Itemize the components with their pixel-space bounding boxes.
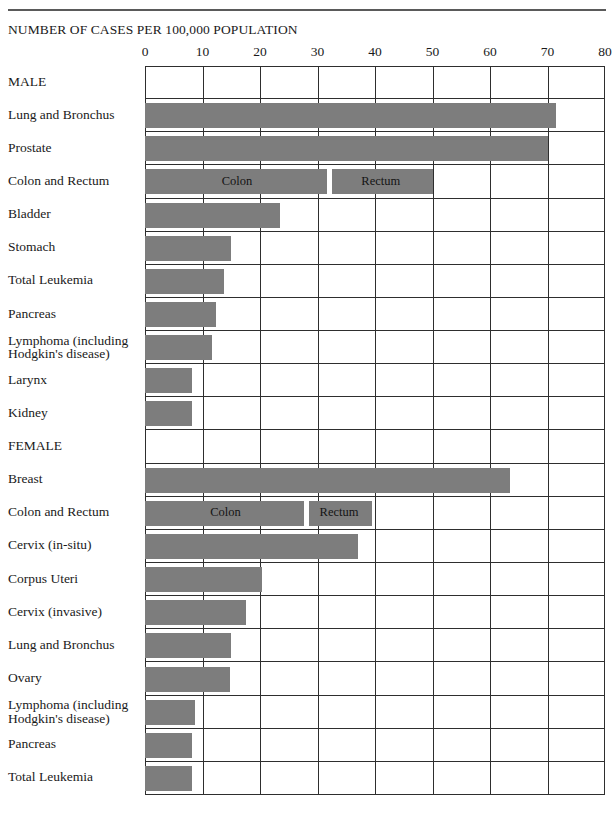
row-bar-area (145, 199, 605, 232)
row-bar-area (145, 431, 605, 464)
bar (145, 567, 262, 592)
bar (145, 368, 192, 393)
row-bar-area (145, 762, 605, 795)
chart-row: Larynx (0, 364, 614, 397)
row-label: Cervix (invasive) (8, 605, 102, 619)
bar (145, 766, 192, 791)
row-label: Cervix (in-situ) (8, 538, 92, 552)
row-label: Colon and Rectum (8, 174, 109, 188)
chart-row: Cervix (invasive) (0, 596, 614, 629)
row-label: Breast (8, 472, 43, 486)
x-tick-label-70: 70 (541, 44, 555, 60)
row-label: Pancreas (8, 307, 56, 321)
chart-row: Pancreas (0, 729, 614, 762)
chart-row: Total Leukemia (0, 265, 614, 298)
row-bar-area (145, 331, 605, 364)
chart-row: Lung and Bronchus (0, 99, 614, 132)
chart-row: Corpus Uteri (0, 563, 614, 596)
bar (145, 203, 280, 228)
row-label: Bladder (8, 207, 51, 221)
bar (145, 534, 358, 559)
bar (145, 700, 195, 725)
row-label: Corpus Uteri (8, 572, 78, 586)
row-label: Lymphoma (includingHodgkin's disease) (8, 698, 128, 725)
row-label: Total Leukemia (8, 770, 93, 784)
chart-row: Kidney (0, 397, 614, 430)
row-label-line1: Lymphoma (including (8, 334, 128, 348)
chart-row: Cervix (in-situ) (0, 530, 614, 563)
row-bar-area: ColonRectum (145, 497, 605, 530)
x-tick-label-20: 20 (253, 44, 267, 60)
row-label: Colon and Rectum (8, 505, 109, 519)
bar (145, 269, 224, 294)
chart-row: Lung and Bronchus (0, 629, 614, 662)
x-tick-label-0: 0 (142, 44, 149, 60)
row-label-line1: Lymphoma (including (8, 698, 128, 712)
bar (145, 136, 548, 161)
chart-row: MALE (0, 66, 614, 99)
row-label: Larynx (8, 373, 47, 387)
bar (145, 733, 192, 758)
chart-row: Lymphoma (includingHodgkin's disease) (0, 331, 614, 364)
bar (145, 633, 231, 658)
bar (145, 103, 556, 128)
x-tick-label-10: 10 (196, 44, 210, 60)
x-axis-tick-labels: 01020304050607080 (0, 44, 614, 62)
row-bar-area (145, 563, 605, 596)
row-bar-area (145, 397, 605, 430)
row-bar-area (145, 232, 605, 265)
row-bar-area (145, 662, 605, 695)
row-label-line2: Hodgkin's disease) (8, 347, 128, 361)
row-bar-area (145, 696, 605, 729)
chart-title: NUMBER OF CASES PER 100,000 POPULATION (8, 22, 298, 38)
bar-segment-divider (327, 169, 332, 194)
bar (145, 236, 231, 261)
row-label: Prostate (8, 141, 52, 155)
row-bar-area (145, 66, 605, 99)
top-divider-rule (8, 9, 606, 11)
bar (145, 600, 246, 625)
bar (145, 468, 510, 493)
row-bar-area (145, 464, 605, 497)
x-tick-label-50: 50 (426, 44, 440, 60)
x-tick-label-30: 30 (311, 44, 325, 60)
bar-segment-label-colon: Colon (222, 174, 253, 189)
row-bar-area (145, 596, 605, 629)
bar-segment-label-rectum: Rectum (361, 174, 400, 189)
row-label-line2: Hodgkin's disease) (8, 712, 128, 726)
bar (145, 335, 212, 360)
row-label: Lung and Bronchus (8, 638, 114, 652)
chart-container: NUMBER OF CASES PER 100,000 POPULATION 0… (0, 0, 614, 813)
row-label: Total Leukemia (8, 273, 93, 287)
row-bar-area (145, 298, 605, 331)
x-tick-label-60: 60 (483, 44, 497, 60)
row-label: MALE (8, 75, 46, 89)
row-label: Lung and Bronchus (8, 108, 114, 122)
bar-segment-label-rectum: Rectum (320, 505, 359, 520)
row-label: Ovary (8, 671, 42, 685)
chart-row: Total Leukemia (0, 762, 614, 795)
row-bar-area (145, 364, 605, 397)
chart-row: Bladder (0, 199, 614, 232)
row-label: Pancreas (8, 737, 56, 751)
row-label: Lymphoma (includingHodgkin's disease) (8, 334, 128, 361)
x-tick-label-40: 40 (368, 44, 382, 60)
chart-row: Ovary (0, 662, 614, 695)
chart-row: FEMALE (0, 431, 614, 464)
chart-row: Prostate (0, 132, 614, 165)
bar-segment-label-colon: Colon (210, 505, 241, 520)
chart-row: Stomach (0, 232, 614, 265)
chart-row: Colon and RectumColonRectum (0, 165, 614, 198)
row-label: Stomach (8, 240, 55, 254)
chart-row: Pancreas (0, 298, 614, 331)
row-bar-area (145, 629, 605, 662)
bar (145, 667, 230, 692)
row-bar-area (145, 99, 605, 132)
bar (145, 401, 192, 426)
row-bar-area (145, 265, 605, 298)
bar (145, 302, 216, 327)
row-label: FEMALE (8, 439, 62, 453)
x-tick-label-80: 80 (598, 44, 612, 60)
row-bar-area: ColonRectum (145, 165, 605, 198)
row-label: Kidney (8, 406, 48, 420)
